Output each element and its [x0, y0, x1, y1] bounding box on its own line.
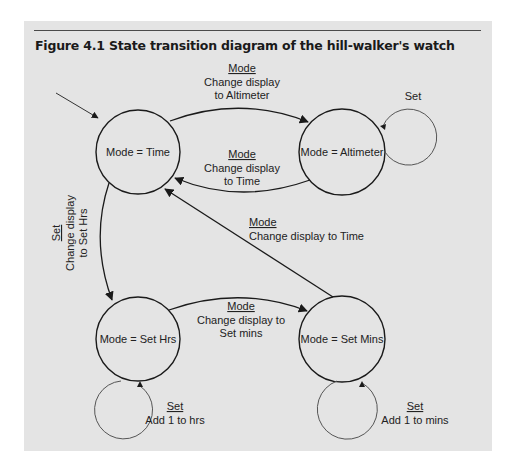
arrowhead-sethrs-loop	[137, 381, 143, 387]
label-setmins-time-event: Mode	[249, 216, 277, 228]
label-altimeter-time-event: Mode	[228, 148, 256, 160]
state-diagram: Mode = Time Mode = Altimeter Mode = Set …	[0, 0, 518, 475]
label-altimeter-time-action1: Change display	[204, 162, 280, 174]
state-set-hrs: Mode = Set Hrs	[96, 297, 180, 381]
edge-set-mins-self-loop	[317, 381, 377, 439]
label-time-altimeter-event: Mode	[228, 62, 256, 74]
label-time-sethrs-action1: Change display	[64, 195, 76, 271]
label-setmins-self-event: Set	[407, 400, 424, 412]
state-set-mins-label: Mode = Set Mins	[301, 333, 384, 345]
state-time-label: Mode = Time	[106, 146, 170, 158]
edge-time-to-set-hrs	[100, 183, 112, 300]
state-set-hrs-label: Mode = Set Hrs	[100, 333, 177, 345]
edge-altimeter-self-loop	[383, 109, 437, 165]
edge-time-to-altimeter	[170, 108, 308, 122]
label-time-altimeter-action1: Change display	[204, 76, 280, 88]
label-setmins-time-action1: Change display to Time	[249, 230, 364, 242]
label-sethrs-self-event: Set	[167, 400, 184, 412]
label-time-sethrs-event: Set	[50, 225, 62, 242]
edge-set-hrs-self-loop	[95, 381, 153, 439]
label-altimeter-self-event: Set	[405, 90, 422, 102]
state-altimeter: Mode = Altimeter	[299, 109, 385, 195]
label-altimeter-time-action2: to Time	[224, 175, 260, 187]
label-sethrs-setmins-action1: Change display to	[197, 314, 285, 326]
label-setmins-self-action1: Add 1 to mins	[381, 414, 449, 426]
state-altimeter-label: Mode = Altimeter	[301, 146, 384, 158]
state-set-mins: Mode = Set Mins	[299, 296, 385, 382]
label-sethrs-self-action1: Add 1 to hrs	[145, 414, 205, 426]
label-time-altimeter-action2: to Altimeter	[214, 89, 269, 101]
label-sethrs-setmins-event: Mode	[227, 300, 255, 312]
state-time: Mode = Time	[96, 110, 180, 194]
label-time-sethrs-action2: to Set Hrs	[77, 208, 89, 257]
initial-arrow	[56, 93, 98, 118]
label-sethrs-setmins-action2: Set mins	[220, 327, 263, 339]
edge-set-mins-to-time	[165, 189, 333, 297]
